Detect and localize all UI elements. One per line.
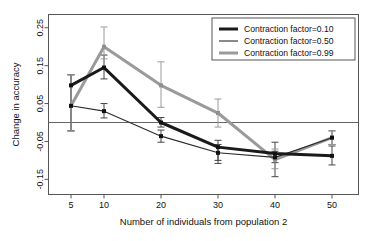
data-point-marker xyxy=(216,111,220,115)
data-point-marker xyxy=(330,136,334,140)
x-axis-tick-label: 10 xyxy=(99,200,109,210)
data-point-marker xyxy=(159,121,163,125)
y-axis-tick-label: 0.15 xyxy=(36,57,46,75)
y-axis-tick-label: 0.25 xyxy=(36,19,46,37)
error-bars-0 xyxy=(68,55,336,177)
chart-container: -0.15-0.050.050.150.25Change in accuracy… xyxy=(0,0,371,241)
legend-label-0: Contraction factor=0.10 xyxy=(244,24,334,34)
data-point-marker xyxy=(102,66,106,70)
data-point-marker xyxy=(273,152,277,156)
data-point-marker xyxy=(330,154,334,158)
x-axis-tick-label: 20 xyxy=(156,200,166,210)
data-point-marker xyxy=(102,45,106,49)
data-point-marker xyxy=(273,155,277,159)
x-axis-title: Number of individuals from population 2 xyxy=(120,216,287,227)
error-bars-1 xyxy=(68,75,336,163)
y-axis-tick-label: 0.05 xyxy=(36,95,46,113)
data-point-marker xyxy=(216,151,220,155)
x-axis-tick-label: 5 xyxy=(68,200,73,210)
series-line-2 xyxy=(71,47,332,160)
x-axis-tick-label: 50 xyxy=(327,200,337,210)
y-axis-tick-label: -0.15 xyxy=(36,169,46,190)
legend-label-2: Contraction factor=0.99 xyxy=(244,48,334,58)
data-point-marker xyxy=(69,104,73,108)
data-point-marker xyxy=(69,83,73,87)
data-point-marker xyxy=(216,145,220,149)
line-chart: -0.15-0.050.050.150.25Change in accuracy… xyxy=(0,0,371,241)
y-axis-title: Change in accuracy xyxy=(10,62,21,146)
data-point-marker xyxy=(159,83,163,87)
y-axis-tick-label: -0.05 xyxy=(36,131,46,152)
series-line-0 xyxy=(71,68,332,156)
series-line-1 xyxy=(71,106,332,158)
data-point-marker xyxy=(102,109,106,113)
legend-label-1: Contraction factor=0.50 xyxy=(244,36,334,46)
x-axis-tick-label: 40 xyxy=(270,200,280,210)
data-point-marker xyxy=(159,134,163,138)
x-axis-tick-label: 30 xyxy=(213,200,223,210)
